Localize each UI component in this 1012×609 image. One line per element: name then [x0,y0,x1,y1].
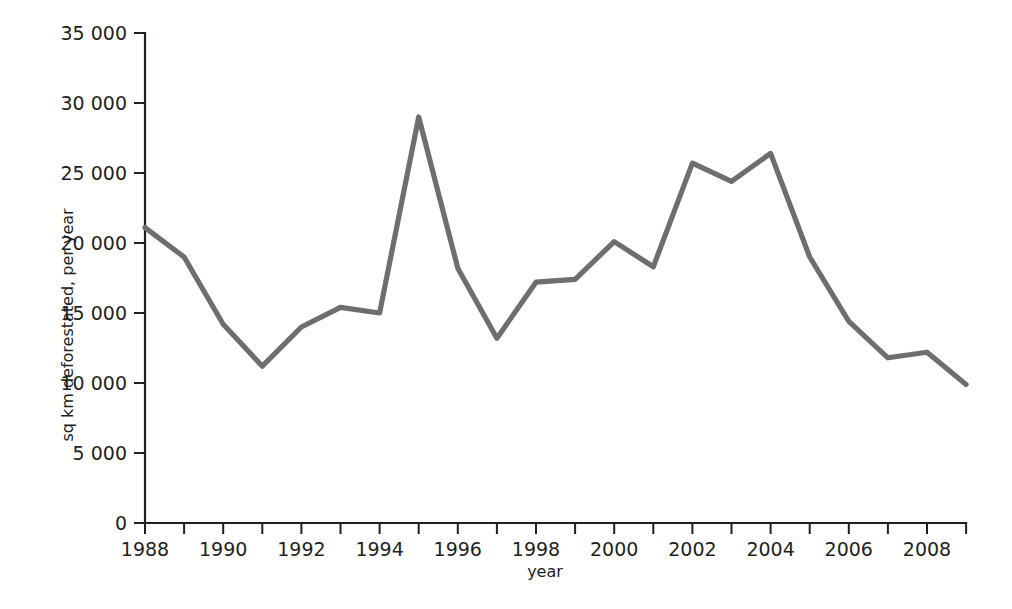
x-axis-tick-labels: 1988199019921994199619982000200220042006… [121,538,951,560]
y-axis-tick-label: 25 000 [61,162,127,184]
line-chart: 05 00010 00015 00020 00025 00030 00035 0… [0,0,1012,609]
y-axis-ticks [134,33,145,523]
x-axis-tick-label: 1994 [355,538,403,560]
x-axis-ticks [145,523,966,534]
x-axis-tick-label: 2008 [903,538,951,560]
y-axis-tick-label: 30 000 [61,92,127,114]
y-axis-title: sq km deforestated, per year [58,208,77,442]
x-axis-tick-label: 1990 [199,538,247,560]
y-axis-tick-label: 0 [115,512,127,534]
x-axis-tick-label: 1992 [277,538,325,560]
x-axis-tick-label: 2004 [746,538,794,560]
x-axis-tick-label: 2002 [668,538,716,560]
y-axis-tick-label: 35 000 [61,22,127,44]
x-axis-tick-label: 1996 [434,538,482,560]
x-axis-tick-label: 2006 [825,538,873,560]
y-axis-tick-label: 5 000 [73,442,127,464]
chart-container: 05 00010 00015 00020 00025 00030 00035 0… [0,0,1012,609]
x-axis-tick-label: 1998 [512,538,560,560]
deforestation-series-line [145,117,966,384]
x-axis-tick-label: 2000 [590,538,638,560]
x-axis-tick-label: 1988 [121,538,169,560]
x-axis-title: year [527,562,563,581]
